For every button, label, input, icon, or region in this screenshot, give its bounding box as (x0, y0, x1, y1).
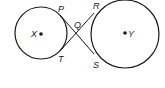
center-point-x (39, 32, 43, 36)
label-r: R (93, 1, 100, 11)
tangent-segment-tr (60, 13, 94, 51)
label-s: S (93, 60, 99, 70)
label-x: X (30, 29, 38, 39)
tangent-circles-diagram: X Y P R Q T S (0, 0, 165, 88)
label-y: Y (128, 29, 135, 39)
label-t: T (58, 54, 65, 64)
center-point-y (123, 31, 127, 35)
label-q: Q (74, 20, 81, 30)
label-p: P (58, 4, 64, 14)
